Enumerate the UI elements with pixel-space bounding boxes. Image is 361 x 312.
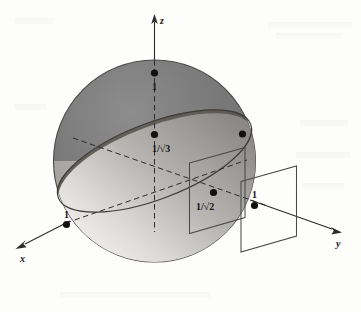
point-y-unit-label: 1	[252, 189, 257, 200]
axis-y-arrowhead	[331, 227, 342, 235]
point-one-over-sqrt3-dot	[151, 131, 158, 138]
point-one-over-sqrt2-dot	[210, 189, 217, 196]
point-y-unit: 1	[251, 189, 258, 209]
axis-x-label: x	[19, 253, 25, 264]
point-one-over-sqrt3-label: 1/√3	[152, 143, 170, 154]
point-x-front-dot	[63, 221, 70, 228]
point-z-top-dot	[151, 69, 158, 76]
point-z-top-label: 1	[152, 81, 157, 92]
vertical-plane-right-outline	[241, 166, 297, 252]
axis-x: x	[16, 221, 71, 264]
point-x-front-label: 1	[64, 209, 69, 220]
point-y-unit-dot	[251, 202, 258, 209]
point-disc-rim-dot	[239, 130, 246, 137]
axis-y-label: y	[335, 238, 341, 249]
point-one-over-sqrt2-label: 1/√2	[196, 201, 214, 212]
axis-z-label: z	[159, 15, 164, 26]
figure-container: z	[0, 0, 361, 312]
sphere-diagram: z	[0, 0, 361, 312]
axis-x-arrowhead	[16, 240, 27, 249]
vertical-plane-right	[241, 166, 297, 252]
point-disc-rim	[239, 130, 246, 137]
